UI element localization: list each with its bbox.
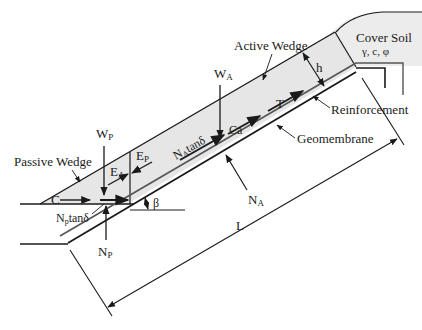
np-tan-leader <box>92 204 104 214</box>
slope-diagram: L h Cover Soil γ, c, φ Active Wedge Rein… <box>0 0 422 330</box>
label-wp: WP <box>96 126 113 142</box>
label-wa: WA <box>214 66 233 82</box>
force-na-arrow <box>226 155 247 190</box>
label-l: L <box>236 218 244 233</box>
label-t: T <box>276 96 284 111</box>
anchor-trench-geomembrane <box>356 68 385 88</box>
label-np: NP <box>98 244 112 260</box>
label-cover-soil: Cover Soil <box>356 30 412 45</box>
reinforcement-leader <box>313 96 330 108</box>
slope-surface-line <box>40 32 335 204</box>
label-geomembrane: Geomembrane <box>297 131 374 146</box>
label-active-wedge: Active Wedge <box>234 38 308 53</box>
label-c: C <box>51 192 60 207</box>
geomembrane-line <box>68 72 356 243</box>
label-beta: β <box>153 196 159 210</box>
passive-wedge-leader <box>72 170 80 182</box>
dimension-l-bottom-tick <box>70 250 112 316</box>
label-h: h <box>316 60 323 75</box>
label-na: NA <box>248 192 264 208</box>
label-passive-wedge: Passive Wedge <box>14 154 92 169</box>
beta-angle-arrow <box>145 198 148 209</box>
label-reinforcement: Reinforcement <box>331 102 409 117</box>
label-cover-soil-params: γ, c, φ <box>361 45 389 57</box>
geomembrane-leader <box>277 125 295 138</box>
label-np-tan: Nptanδ <box>56 211 89 226</box>
label-ca: Ca <box>229 123 243 137</box>
wedge-soil-fill <box>40 32 356 204</box>
